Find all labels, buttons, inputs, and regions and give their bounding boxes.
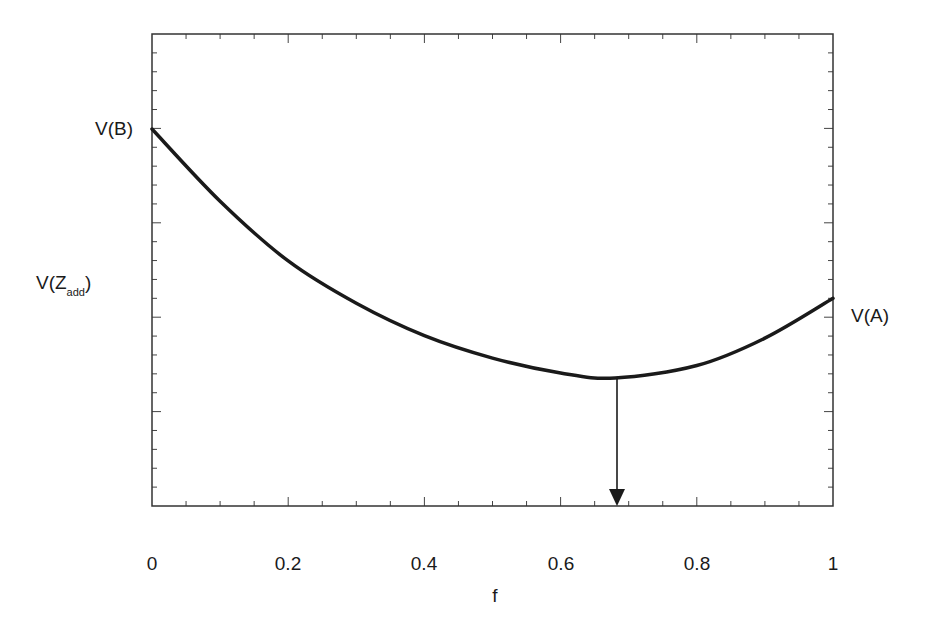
- label-v-z-close: ): [85, 272, 91, 293]
- x-tick-1: 1: [828, 553, 839, 575]
- x-axis-label: f: [492, 585, 497, 607]
- x-tick-0-8: 0.8: [684, 553, 710, 575]
- label-v-b: V(B): [95, 118, 133, 140]
- label-v-z-subscript: add: [67, 286, 85, 298]
- axis-ticks: [152, 34, 833, 506]
- x-tick-0: 0: [147, 553, 158, 575]
- label-v-z-main: V(Z: [36, 272, 67, 293]
- x-tick-0-4: 0.4: [411, 553, 437, 575]
- plot-frame: [152, 34, 833, 506]
- label-v-z-add: V(Zadd): [36, 272, 91, 298]
- x-tick-0-6: 0.6: [548, 553, 574, 575]
- label-v-a: V(A): [851, 305, 889, 327]
- x-tick-0-2: 0.2: [275, 553, 301, 575]
- chart-canvas: [0, 0, 933, 628]
- minimum-arrow-head: [609, 489, 625, 506]
- energy-curve: [152, 129, 833, 378]
